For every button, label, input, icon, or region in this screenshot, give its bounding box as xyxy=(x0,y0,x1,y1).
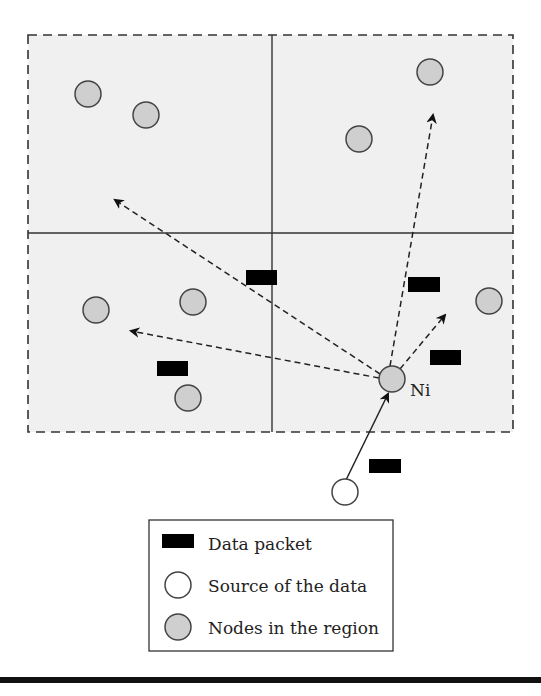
legend-packet-swatch xyxy=(162,534,194,548)
diagram-canvas: Ni Data packet Source of the data Nodes … xyxy=(0,0,541,696)
data-packet xyxy=(430,350,461,365)
legend: Data packet Source of the data Nodes in … xyxy=(149,520,393,651)
node xyxy=(75,81,101,107)
legend-label-node: Nodes in the region xyxy=(208,618,379,638)
data-packet xyxy=(157,361,188,376)
node xyxy=(346,126,372,152)
node xyxy=(175,385,201,411)
ni-label: Ni xyxy=(410,380,431,400)
node xyxy=(83,297,109,323)
bottom-rule xyxy=(0,677,541,683)
legend-node-swatch xyxy=(165,614,191,640)
data-packet xyxy=(408,277,440,292)
node xyxy=(133,102,159,128)
forwarding-node-ni xyxy=(379,366,405,392)
node xyxy=(180,289,206,315)
legend-source-swatch xyxy=(165,572,191,598)
source-node xyxy=(332,479,358,505)
legend-label-packet: Data packet xyxy=(208,534,312,554)
legend-label-source: Source of the data xyxy=(208,576,367,596)
data-packet xyxy=(369,459,401,473)
node xyxy=(417,59,443,85)
node xyxy=(476,288,502,314)
data-packet xyxy=(246,270,277,285)
